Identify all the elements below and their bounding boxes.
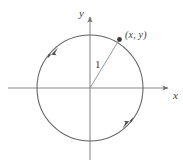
direction-arrow-upper-left [48,48,59,59]
unit-circle-figure: y x (x, y) 1 [0,0,183,168]
figure-canvas [0,0,183,168]
direction-arrow-lower-right [123,118,134,129]
radius-length-label: 1 [95,59,101,70]
x-axis-label: x [173,90,178,101]
point-coordinate-label: (x, y) [125,30,147,40]
y-axis-label: y [79,8,84,19]
point-marker [117,37,122,42]
